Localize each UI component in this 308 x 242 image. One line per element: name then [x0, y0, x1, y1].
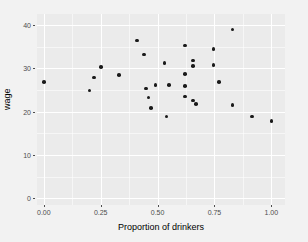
y-tick-mark — [33, 68, 35, 69]
y-tick-label: 0 — [14, 195, 31, 202]
plot-panel — [37, 14, 285, 205]
data-point — [142, 53, 146, 57]
grid-line-y-major — [37, 112, 285, 113]
grid-line-y-minor — [37, 133, 285, 134]
x-tick-mark — [101, 205, 102, 207]
grid-line-x-major — [271, 14, 272, 205]
data-point — [183, 84, 187, 88]
x-tick-mark — [271, 205, 272, 207]
y-tick-mark — [33, 198, 35, 199]
y-tick-label: 20 — [14, 108, 31, 115]
data-point — [165, 115, 169, 119]
data-point — [117, 73, 121, 77]
data-point — [183, 95, 187, 99]
grid-line-y-minor — [37, 177, 285, 178]
data-point — [231, 28, 235, 32]
data-point — [99, 65, 103, 69]
grid-line-y-minor — [37, 90, 285, 91]
grid-line-y-major — [37, 68, 285, 69]
data-point — [191, 59, 195, 63]
x-tick-label: 0.25 — [94, 209, 108, 216]
data-point — [231, 103, 235, 107]
grid-line-x-major — [214, 14, 215, 205]
y-tick-mark — [33, 112, 35, 113]
data-point — [167, 83, 171, 87]
x-tick-label: 0.00 — [37, 209, 51, 216]
data-point — [147, 96, 151, 100]
y-tick-label: 40 — [14, 21, 31, 28]
y-tick-label: 10 — [14, 152, 31, 159]
data-point — [212, 47, 216, 51]
grid-line-y-major — [37, 198, 285, 199]
data-point — [154, 83, 158, 87]
data-point — [250, 115, 254, 119]
x-tick-mark — [44, 205, 45, 207]
data-point — [149, 106, 153, 110]
data-point — [194, 102, 198, 106]
data-point — [88, 89, 92, 93]
y-tick-mark — [33, 25, 35, 26]
data-point — [191, 64, 195, 68]
y-axis-title: wage — [2, 88, 12, 110]
x-tick-label: 1.00 — [265, 209, 279, 216]
data-point — [270, 119, 274, 123]
data-point — [163, 61, 167, 65]
data-point — [183, 72, 187, 76]
grid-line-x-major — [158, 14, 159, 205]
scatter-plot: 010203040 0.000.250.500.751.00 Proportio… — [0, 0, 308, 242]
grid-line-y-minor — [37, 47, 285, 48]
x-tick-label: 0.50 — [151, 209, 165, 216]
grid-line-x-major — [101, 14, 102, 205]
x-tick-label: 0.75 — [208, 209, 222, 216]
y-tick-mark — [33, 155, 35, 156]
x-axis-title: Proportion of drinkers — [37, 222, 285, 232]
grid-line-y-major — [37, 155, 285, 156]
grid-line-y-major — [37, 25, 285, 26]
data-point — [135, 39, 139, 43]
x-tick-mark — [158, 205, 159, 207]
data-point — [212, 63, 216, 67]
x-tick-mark — [214, 205, 215, 207]
data-point — [217, 80, 221, 84]
data-point — [42, 80, 46, 84]
y-tick-label: 30 — [14, 65, 31, 72]
grid-line-x-major — [44, 14, 45, 205]
data-point — [92, 76, 96, 80]
